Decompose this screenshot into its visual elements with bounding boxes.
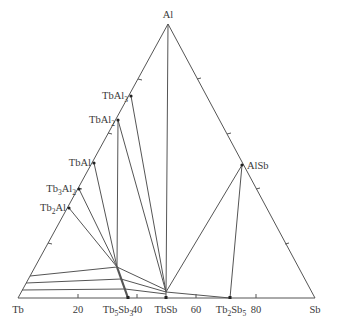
tie-line (26, 279, 121, 283)
tie-line (166, 165, 242, 292)
axis-tick-40: 40 (132, 304, 143, 315)
phase-point-tbsb (165, 296, 168, 299)
phase-point-tb3al2 (77, 187, 80, 190)
tick-mark (138, 79, 142, 80)
tie-line (118, 120, 166, 292)
phase-label-tbal: TbAl (69, 157, 91, 168)
tie-line (131, 96, 166, 292)
phase-label-tb5sb3: Tb5Sb3 (103, 304, 134, 318)
phase-label-tbal2: TbAl2 (89, 114, 115, 128)
phase-label-tb2sb5: Tb2Sb5 (216, 304, 247, 318)
phase-point-tb2al (67, 206, 70, 209)
axis-tick-20: 20 (73, 304, 84, 315)
phase-label-tb3al2: Tb3Al2 (46, 183, 76, 197)
vertex-label-sb: Sb (309, 304, 320, 315)
tie-line (30, 267, 117, 276)
tie-line (230, 165, 242, 298)
phase-label-alsb: AlSb (247, 160, 269, 171)
tick-mark (48, 243, 52, 244)
tie-line (94, 163, 117, 267)
phase-label-tb2al: Tb2Al (40, 202, 66, 216)
tick-mark (227, 133, 231, 134)
phase-point-tb2sb5 (229, 296, 232, 299)
phase-point-tbal (92, 161, 95, 164)
ternary-phase-diagram: Al Tb Sb 20 40 60 80 TbAl3 TbAl2 TbAl Tb… (0, 0, 338, 333)
tie-line (22, 289, 125, 290)
phase-point-alsb (240, 163, 243, 166)
tie-line (166, 24, 168, 297)
axis-tick-60: 60 (191, 304, 202, 315)
vertex-label-al: Al (163, 9, 174, 20)
tie-line (117, 120, 118, 267)
phase-point-tbal3 (129, 94, 132, 97)
phase-point-tbal2 (116, 118, 119, 121)
axis-tick-80: 80 (251, 304, 262, 315)
tie-line (166, 292, 230, 298)
vertex-label-tb: Tb (12, 304, 24, 315)
tie-line (121, 279, 166, 292)
phase-label-tbsb: TbSb (155, 304, 178, 315)
phase-point-tb5sb3 (127, 296, 130, 299)
phase-label-tbal3: TbAl3 (102, 90, 128, 104)
tick-mark (108, 133, 112, 134)
